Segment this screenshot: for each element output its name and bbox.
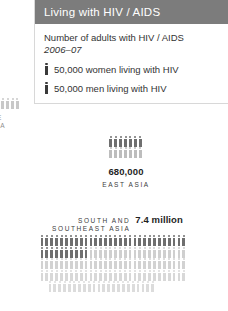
figure-row xyxy=(40,247,195,258)
person-figure-icon xyxy=(123,247,127,258)
person-figure-icon xyxy=(1,98,5,109)
person-figure-icon xyxy=(104,270,108,281)
person-figure-icon xyxy=(172,258,176,269)
person-figure-icon xyxy=(157,235,161,246)
person-figure-icon xyxy=(79,258,83,269)
person-figure-icon xyxy=(99,235,103,246)
person-figure-icon xyxy=(55,258,59,269)
person-figure-icon xyxy=(84,235,88,246)
person-figure-icon xyxy=(64,247,68,258)
person-figure-icon xyxy=(128,136,132,147)
person-figure-icon xyxy=(40,270,44,281)
person-figure-icon xyxy=(45,258,49,269)
cluster-region-label: EAST ASIA xyxy=(96,181,156,188)
person-figure-icon xyxy=(167,258,171,269)
figure-rows xyxy=(96,136,156,158)
person-figure-icon xyxy=(87,281,91,292)
person-figure-icon xyxy=(123,270,127,281)
cluster-heading: SOUTH AND SOUTHEAST ASIA 7.4 million xyxy=(40,214,195,232)
person-figure-icon xyxy=(133,258,137,269)
person-figure-icon xyxy=(182,235,186,246)
person-figure-icon xyxy=(60,270,64,281)
person-figure-icon xyxy=(74,270,78,281)
person-figure-icon xyxy=(108,270,112,281)
person-figure-icon xyxy=(126,281,130,292)
person-figure-icon xyxy=(55,247,59,258)
person-figure-icon xyxy=(167,235,171,246)
legend-item-label: 50,000 men living with HIV xyxy=(54,83,166,94)
person-figure-icon xyxy=(50,247,54,258)
pictogram-cluster-east-asia: 680,000 EAST ASIA xyxy=(96,136,156,188)
person-figure-icon xyxy=(143,270,147,281)
person-figure-icon xyxy=(133,136,137,147)
person-figure-icon xyxy=(48,281,52,292)
person-figure-icon xyxy=(104,247,108,258)
person-figure-icon xyxy=(102,281,106,292)
person-figure-icon xyxy=(64,258,68,269)
cluster-amount: 680,000 xyxy=(96,161,156,179)
person-figure-icon xyxy=(63,281,67,292)
person-figure-icon xyxy=(69,270,73,281)
person-figure-icon xyxy=(148,258,152,269)
person-figure-icon xyxy=(177,247,181,258)
person-figure-icon xyxy=(50,270,54,281)
person-figure-icon xyxy=(116,281,120,292)
person-figure-icon xyxy=(157,247,161,258)
person-figure-icon xyxy=(128,247,132,258)
person-figure-icon xyxy=(69,247,73,258)
person-figure-icon xyxy=(133,247,137,258)
person-figure-icon xyxy=(74,258,78,269)
person-figure-icon xyxy=(133,147,137,158)
cluster-region-label-line: PE xyxy=(0,114,31,122)
person-figure-icon xyxy=(97,281,101,292)
figure-row xyxy=(96,147,156,158)
person-figure-icon xyxy=(138,147,142,158)
person-figure-icon xyxy=(108,235,112,246)
person-figure-icon xyxy=(124,136,128,147)
person-figure-icon xyxy=(118,270,122,281)
person-figure-icon xyxy=(108,258,112,269)
person-figure-icon xyxy=(162,270,166,281)
cluster-amount: 7.4 million xyxy=(135,214,183,225)
person-figure-icon xyxy=(79,247,83,258)
person-figure-icon xyxy=(99,247,103,258)
person-figure-icon xyxy=(113,247,117,258)
person-figure-icon xyxy=(99,270,103,281)
cluster-region-label-line: SIA xyxy=(0,122,31,130)
person-figure-icon xyxy=(84,270,88,281)
person-figure-icon xyxy=(94,258,98,269)
person-figure-icon xyxy=(94,247,98,258)
person-figure-icon xyxy=(89,235,93,246)
person-figure-icon xyxy=(148,247,152,258)
person-figure-icon xyxy=(152,235,156,246)
pictogram-cluster-south-southeast-asia: SOUTH AND SOUTHEAST ASIA 7.4 million xyxy=(40,214,195,293)
figure-rows xyxy=(40,235,195,292)
person-figure-icon xyxy=(69,235,73,246)
person-figure-icon xyxy=(151,281,155,292)
person-figure-icon xyxy=(74,247,78,258)
person-figure-icon xyxy=(45,235,49,246)
person-figure-icon xyxy=(50,258,54,269)
person-figure-icon xyxy=(152,270,156,281)
person-figure-icon xyxy=(118,247,122,258)
person-figure-icon xyxy=(53,281,57,292)
person-figure-icon xyxy=(167,247,171,258)
person-figure-icon xyxy=(162,258,166,269)
person-figure-icon xyxy=(79,270,83,281)
person-figure-icon xyxy=(50,235,54,246)
figure-row xyxy=(40,281,195,292)
legend-title: Living with HIV / AIDS xyxy=(35,0,228,24)
person-figure-icon xyxy=(94,270,98,281)
person-figure-icon xyxy=(6,98,10,109)
person-figure-icon xyxy=(118,235,122,246)
person-figure-icon xyxy=(138,136,142,147)
person-figure-icon xyxy=(148,270,152,281)
person-figure-icon xyxy=(118,258,122,269)
person-figure-icon xyxy=(138,270,142,281)
legend-item-men: 50,000 men living with HIV xyxy=(44,82,219,94)
person-figure-icon xyxy=(82,281,86,292)
person-figure-icon xyxy=(123,235,127,246)
person-figure-icon xyxy=(89,247,93,258)
person-figure-icon xyxy=(104,235,108,246)
person-figure-icon xyxy=(177,258,181,269)
